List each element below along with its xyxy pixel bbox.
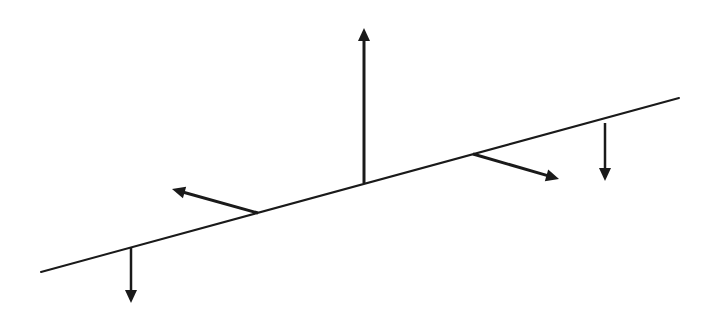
- arrow-down-left: [125, 247, 137, 303]
- arrow-normal-left: [172, 187, 258, 213]
- arrowhead-icon: [125, 290, 137, 303]
- diagram-canvas: [0, 0, 717, 316]
- arrow-normal-right: [473, 154, 559, 181]
- arrowhead-icon: [172, 187, 186, 199]
- arrow-shaft: [183, 192, 258, 213]
- arrowhead-icon: [545, 170, 559, 182]
- arrowhead-icon: [599, 168, 611, 181]
- force-arrows-group: [125, 28, 611, 303]
- arrow-down-right: [599, 123, 611, 181]
- arrow-up-center: [358, 28, 370, 183]
- arrow-shaft: [473, 154, 548, 176]
- arrowhead-icon: [358, 28, 370, 41]
- inclined-baseline: [41, 98, 679, 272]
